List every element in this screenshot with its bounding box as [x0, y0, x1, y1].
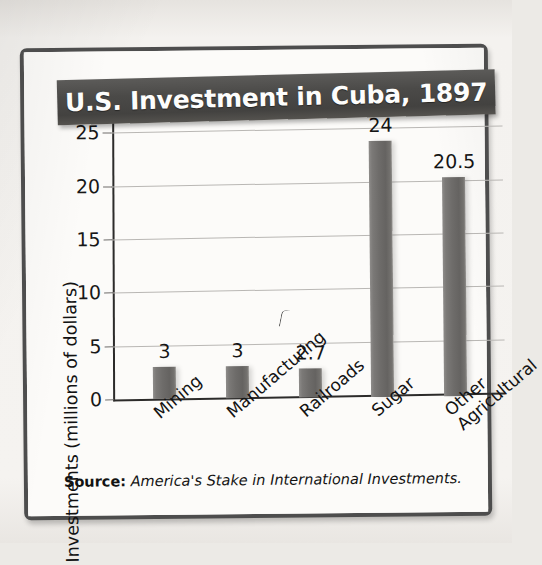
y-axis-tick-mark: [105, 346, 114, 347]
y-axis-tick-label: 5: [89, 335, 101, 357]
chart-title-text: U.S. Investment in Cuba, 1897: [65, 77, 488, 117]
y-axis-tick-mark: [105, 399, 114, 400]
bar-value-label: 20.5: [433, 150, 476, 172]
plot-area: 0510152025 332.72420.5 MiningManufacturi…: [110, 108, 505, 400]
y-axis-tick-label: 15: [76, 228, 100, 250]
y-axis-title: Investments (millions of dollars): [60, 272, 83, 565]
y-axis-tick-label: 20: [76, 175, 100, 197]
y-axis-line: [112, 109, 115, 401]
gridline: [111, 126, 503, 134]
figure-frame: Investments (millions of dollars) 051015…: [20, 44, 493, 520]
stray-pen-mark: [279, 309, 293, 329]
bar-value-label: 3: [158, 340, 170, 362]
y-axis-tick-label: 10: [77, 281, 101, 303]
bar: 24: [369, 141, 394, 397]
bar-value-label: 3: [231, 339, 243, 361]
y-axis-tick-label: 0: [90, 388, 102, 410]
y-axis-tick-mark: [104, 293, 113, 294]
bar: 20.5: [442, 177, 467, 396]
y-axis-tick-mark: [103, 186, 112, 187]
y-axis-tick-mark: [103, 133, 112, 134]
y-axis-tick-mark: [104, 239, 113, 240]
source-title: America's Stake in International Investm…: [131, 470, 462, 489]
source-label: Source:: [64, 473, 126, 490]
